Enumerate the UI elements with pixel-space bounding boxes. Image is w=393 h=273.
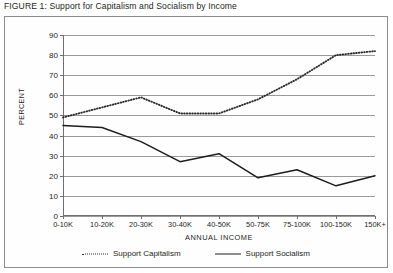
x-tick-label-75-100K: 75-100K [283,220,311,229]
series-line-support-socialism [63,126,375,186]
x-tick-label-50-75K: 50-75K [246,220,270,229]
dotted-line-icon [82,251,108,257]
x-tick-mark-20-30K [141,216,142,219]
y-axis-title: PERCENT [17,88,26,125]
y-tick-label-10: 10 [49,191,58,200]
figure-caption: FIGURE 1: Support for Capitalism and Soc… [4,1,237,11]
y-tick-label-60: 60 [49,91,58,100]
x-tick-label-100-150K: 100-150K [320,220,352,229]
legend-entry-support-capitalism: Support Capitalism [82,249,181,258]
x-tick-mark-0-10K [63,216,64,219]
x-tick-label-10-20K: 10-20K [90,220,114,229]
x-tick-mark-40-50K [219,216,220,219]
y-tick-label-30: 30 [49,151,58,160]
y-tick-label-80: 80 [49,51,58,60]
x-tick-mark-30-40K [180,216,181,219]
x-tick-mark-150K+ [375,216,376,219]
x-tick-mark-50-75K [258,216,259,219]
y-tick-label-40: 40 [49,131,58,140]
y-tick-label-90: 90 [49,31,58,40]
y-tick-label-20: 20 [49,171,58,180]
solid-line-icon [215,251,241,257]
legend-label: Support Capitalism [113,249,181,258]
x-tick-label-40-50K: 40-50K [207,220,231,229]
series-lines [63,35,375,216]
legend-entry-support-socialism: Support Socialism [215,249,310,258]
series-line-support-capitalism [63,51,375,117]
plot-area: 0102030405060708090 0-10K10-20K20-30K30-… [63,35,375,216]
x-tick-label-20-30K: 20-30K [129,220,153,229]
chart-frame: PERCENT ANNUAL INCOME 010203040506070809… [4,16,388,268]
chart-legend: Support CapitalismSupport Socialism [5,249,387,258]
y-tick-label-70: 70 [49,71,58,80]
x-tick-label-150K+: 150K+ [364,220,386,229]
x-tick-label-30-40K: 30-40K [168,220,192,229]
legend-label: Support Socialism [246,249,310,258]
x-axis-title: ANNUAL INCOME [63,233,375,242]
x-tick-mark-10-20K [102,216,103,219]
x-tick-mark-100-150K [336,216,337,219]
y-tick-label-50: 50 [49,111,58,120]
x-tick-mark-75-100K [297,216,298,219]
x-tick-label-0-10K: 0-10K [53,220,73,229]
